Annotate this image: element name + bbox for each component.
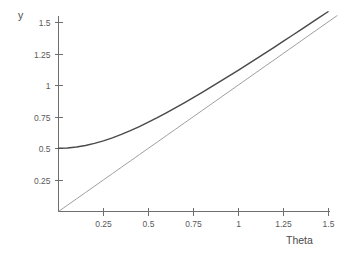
x-tick-label: 1.5 — [323, 219, 335, 229]
x-tick-label: 0.75 — [185, 219, 202, 229]
y-tick-label: 1 — [46, 81, 51, 91]
y-tick-label: 0.25 — [34, 176, 51, 186]
y-axis-title: y — [18, 9, 24, 21]
x-axis-tick-labels: 0.250.50.7511.251.5 — [95, 219, 334, 229]
x-tick-label: 1.25 — [275, 219, 292, 229]
x-tick-label: 0.25 — [95, 219, 112, 229]
y-axis-tick-labels: 0.250.50.7511.251.5 — [34, 18, 51, 186]
x-tick-label: 0.5 — [143, 219, 155, 229]
y-tick-label: 0.75 — [34, 113, 51, 123]
chart-container: 0.250.50.7511.251.5 0.250.50.7511.251.5 … — [0, 0, 355, 257]
line-chart-canvas: 0.250.50.7511.251.5 0.250.50.7511.251.5 … — [0, 0, 355, 257]
y-tick-label: 1.25 — [34, 50, 51, 60]
series-line-theta — [59, 16, 337, 212]
y-tick-label: 0.5 — [39, 144, 51, 154]
x-axis-title: Theta — [286, 234, 313, 246]
series-curve-sqrt — [59, 12, 329, 149]
x-tick-label: 1 — [236, 219, 241, 229]
y-tick-label: 1.5 — [39, 18, 51, 28]
